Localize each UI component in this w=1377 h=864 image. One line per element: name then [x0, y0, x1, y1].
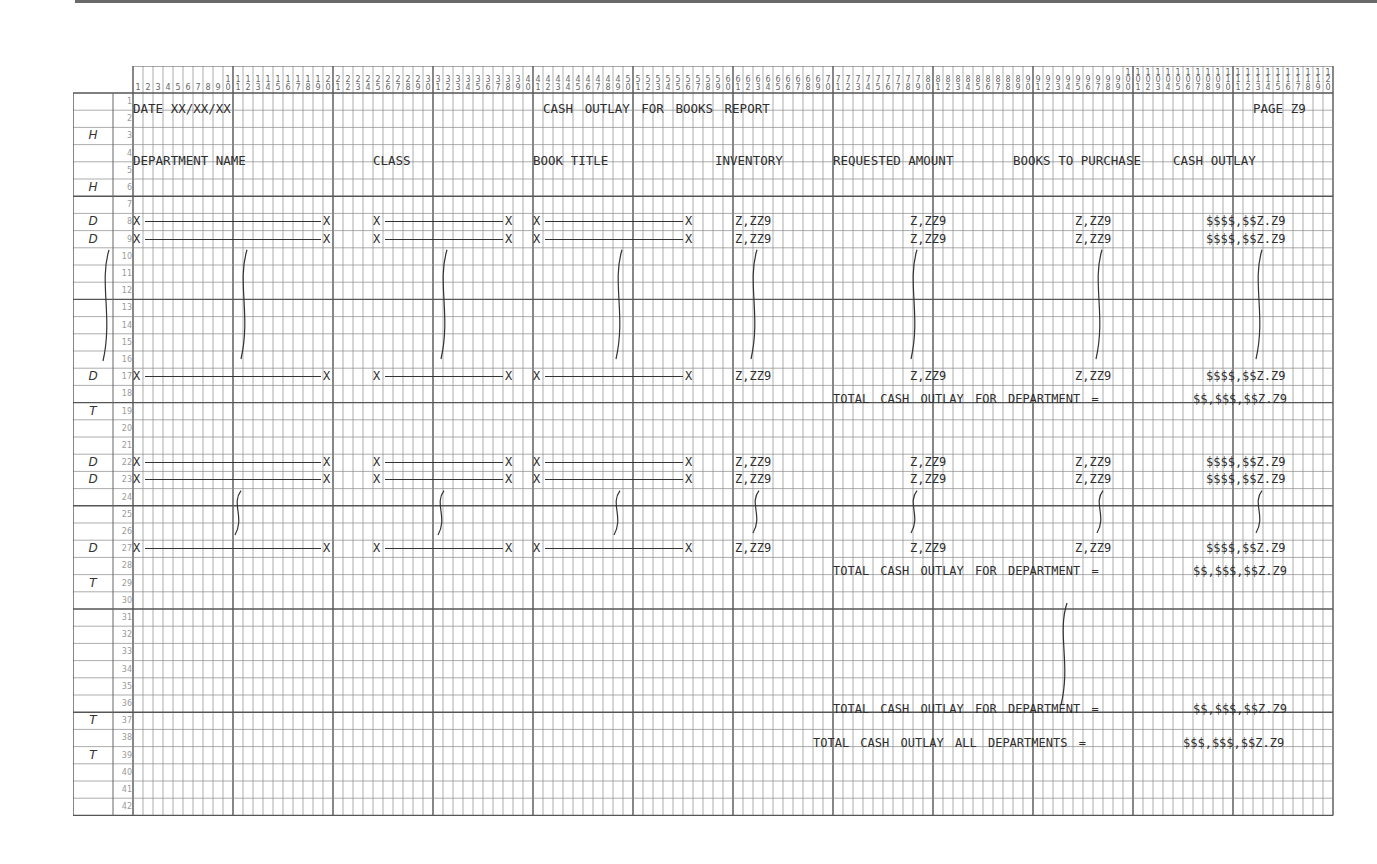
heading-class: CLASS [373, 152, 411, 169]
field-end-marker: X [323, 471, 330, 488]
row-type-code: D [73, 213, 113, 230]
column-number: 8 [1003, 83, 1013, 92]
row-number: 34 [113, 661, 132, 678]
field-start-marker: X [133, 368, 140, 385]
column-number: 8 [203, 83, 213, 92]
continuation-mark [1096, 250, 1102, 359]
field-end-marker: X [505, 231, 512, 248]
continuation-mark [753, 491, 759, 533]
row-type-code: D [73, 471, 113, 488]
continuation-mark [911, 491, 917, 533]
column-number: 2 [843, 83, 853, 92]
row-number: 29 [113, 575, 132, 592]
heading-requested-amount: REQUESTED AMOUNT [833, 152, 953, 169]
numeric-edit-mask: Z,ZZ9 [910, 213, 946, 230]
row-number: 25 [113, 506, 132, 523]
column-number: 7 [393, 83, 403, 92]
field-start-marker: X [373, 231, 380, 248]
column-number: 6 [483, 83, 493, 92]
column-number: 2 [643, 83, 653, 92]
continuation-mark [241, 250, 247, 359]
row-type-code: D [73, 368, 113, 385]
column-number: 9 [613, 83, 623, 92]
chart-grid [73, 66, 1335, 817]
field-extent-line [545, 376, 683, 377]
numeric-edit-mask: $$$$,$$Z.Z9 [1206, 540, 1285, 557]
field-extent-line [545, 462, 683, 463]
column-number: 8 [1203, 83, 1213, 92]
column-number: 5 [473, 83, 483, 92]
date-label: DATE XX/XX/XX [133, 100, 231, 117]
row-number: 39 [113, 747, 132, 764]
column-number: 6 [1083, 83, 1093, 92]
column-number: 4 [1263, 83, 1273, 92]
column-number: 0 [823, 83, 833, 92]
column-number: 9 [1213, 83, 1223, 92]
column-number: 6 [283, 83, 293, 92]
column-number: 9 [1313, 83, 1323, 92]
continuation-mark [614, 491, 620, 535]
column-number: 2 [943, 83, 953, 92]
column-number: 8 [503, 83, 513, 92]
column-number: 0 [723, 83, 733, 92]
field-end-marker: X [685, 471, 692, 488]
field-end-marker: X [685, 231, 692, 248]
dept-total-label-3: TOTAL CASH OUTLAY FOR DEPARTMENT = [833, 701, 1099, 718]
field-end-marker: X [685, 213, 692, 230]
column-number: 9 [913, 83, 923, 92]
column-number: 8 [703, 83, 713, 92]
numeric-edit-mask: Z,ZZ9 [1075, 540, 1111, 557]
column-number: 9 [713, 83, 723, 92]
heading-department-name: DEPARTMENT NAME [133, 152, 246, 169]
column-number: 7 [1293, 83, 1303, 92]
row-number: 40 [113, 764, 132, 781]
column-number: 2 [543, 83, 553, 92]
numeric-edit-mask: Z,ZZ9 [735, 368, 771, 385]
field-extent-line [145, 221, 321, 222]
row-type-code: T [73, 575, 113, 592]
column-number: 3 [253, 83, 263, 92]
row-type-code: T [73, 403, 113, 420]
row-number: 26 [113, 523, 132, 540]
column-number: 0 [223, 83, 233, 92]
column-number: 2 [143, 83, 153, 92]
column-number: 4 [863, 83, 873, 92]
column-number: 8 [903, 83, 913, 92]
column-number: 6 [983, 83, 993, 92]
heading-cash-outlay: CASH OUTLAY [1173, 152, 1256, 169]
field-end-marker: X [323, 231, 330, 248]
column-number: 2 [343, 83, 353, 92]
row-number: 14 [113, 317, 132, 334]
column-number: 7 [1193, 83, 1203, 92]
numeric-edit-mask: $$$$,$$Z.Z9 [1206, 231, 1285, 248]
row-number: 30 [113, 592, 132, 609]
column-number: 4 [763, 83, 773, 92]
numeric-edit-mask: Z,ZZ9 [1075, 471, 1111, 488]
column-number: 1 [233, 83, 243, 92]
field-extent-line [145, 239, 321, 240]
dept-total-label-2: TOTAL CASH OUTLAY FOR DEPARTMENT = [833, 563, 1099, 580]
column-number: 1 [1233, 83, 1243, 92]
field-start-marker: X [133, 231, 140, 248]
row-number: 19 [113, 403, 132, 420]
row-number: 6 [113, 179, 132, 196]
continuation-mark [1256, 491, 1262, 533]
column-number: 3 [653, 83, 663, 92]
field-start-marker: X [533, 213, 540, 230]
row-number: 18 [113, 385, 132, 402]
column-number: 4 [463, 83, 473, 92]
field-extent-line [145, 376, 321, 377]
continuation-mark [1061, 603, 1067, 705]
field-start-marker: X [373, 454, 380, 471]
column-number: 9 [1013, 83, 1023, 92]
column-number: 1 [133, 83, 143, 92]
column-number: 6 [683, 83, 693, 92]
numeric-edit-mask: Z,ZZ9 [910, 540, 946, 557]
row-number: 2 [113, 110, 132, 127]
column-number: 7 [593, 83, 603, 92]
column-number: 0 [1223, 83, 1233, 92]
row-number: 20 [113, 420, 132, 437]
column-number: 9 [1113, 83, 1123, 92]
field-start-marker: X [533, 231, 540, 248]
column-number: 5 [873, 83, 883, 92]
